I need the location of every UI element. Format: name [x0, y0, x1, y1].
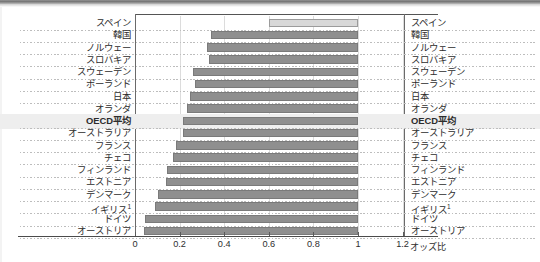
bar-スウェーデン	[193, 68, 358, 77]
x-tick-label: 0.2	[173, 239, 186, 249]
category-label-right: エストニア	[409, 176, 456, 188]
category-label-left: オーストラリア	[68, 127, 133, 139]
category-label-right: ノルウェー	[409, 42, 456, 54]
category-label-right: ポーランド	[409, 78, 456, 90]
category-label-right: 韓国	[409, 29, 429, 41]
category-label-left: フィンランド	[77, 164, 133, 176]
category-label-left: デンマーク	[86, 189, 133, 201]
bar-フィンランド	[167, 166, 358, 175]
bar-韓国	[211, 31, 358, 40]
category-label-right: オランダ	[409, 103, 447, 115]
category-label-left: ドイツ	[104, 213, 133, 225]
category-label-left: ポーランド	[86, 78, 133, 90]
category-label-left: スウェーデン	[77, 66, 133, 78]
category-label-right: デンマーク	[409, 189, 456, 201]
category-label-right: スウェーデン	[409, 66, 465, 78]
bar-エストニア	[166, 178, 358, 187]
bar-ポーランド	[195, 80, 358, 89]
x-tick-label: 0.4	[218, 239, 231, 249]
x-tick-label: 0.8	[307, 239, 320, 249]
category-label-right: フランス	[409, 140, 447, 152]
category-label-left: ノルウェー	[86, 42, 133, 54]
category-label-left: チェコ	[104, 152, 133, 164]
bar-ノルウェー	[207, 43, 358, 52]
bar-スロバキア	[209, 55, 358, 64]
bar-OECD平均	[183, 117, 358, 126]
category-label-right: スペイン	[409, 17, 446, 29]
footnote-marker: 1	[447, 203, 451, 210]
category-label-right: チェコ	[409, 152, 438, 164]
x-tick-label: 0	[132, 239, 137, 249]
x-tick-label: 1	[355, 239, 360, 249]
bar-オーストラリア	[183, 129, 358, 138]
category-label-left: スロバキア	[86, 54, 133, 66]
category-label-left: フランス	[95, 140, 133, 152]
category-label-right: ドイツ	[409, 213, 438, 225]
category-label-right: フィンランド	[409, 164, 465, 176]
bar-オーストリア	[144, 227, 358, 236]
category-label-left: エストニア	[86, 176, 133, 188]
bar-ドイツ	[145, 215, 358, 224]
x-tick	[313, 232, 314, 236]
x-axis-label: オッズ比	[410, 239, 446, 253]
x-tick	[180, 232, 181, 236]
bar-オランダ	[187, 104, 358, 113]
category-label-right: 日本	[409, 91, 429, 103]
x-tick	[224, 232, 225, 236]
footnote-marker: 1	[127, 203, 131, 210]
x-axis: オッズ比 00.20.40.60.811.2	[0, 236, 540, 262]
x-tick	[403, 232, 404, 236]
category-label-right: スロバキア	[409, 54, 456, 66]
bar-デンマーク	[158, 190, 358, 199]
x-tick	[269, 232, 270, 236]
bar-イギリス	[155, 202, 358, 211]
bar-フランス	[176, 141, 358, 150]
category-label-left: オランダ	[95, 103, 133, 115]
odds-ratio-chart: スペインスペイン韓国韓国ノルウェーノルウェースロバキアスロバキアスウェーデンスウ…	[0, 0, 540, 262]
chart-rows: スペインスペイン韓国韓国ノルウェーノルウェースロバキアスロバキアスウェーデンスウ…	[0, 0, 540, 262]
bar-チェコ	[173, 153, 358, 162]
category-label-left: スペイン	[96, 17, 133, 29]
bar-日本	[190, 92, 358, 101]
x-tick-label: 0.6	[262, 239, 275, 249]
category-label-right: OECD平均	[409, 115, 456, 127]
x-tick-label: 1.2	[396, 239, 409, 249]
bar-スペイン	[269, 19, 358, 28]
category-label-left: 韓国	[113, 29, 133, 41]
x-tick	[135, 232, 136, 236]
x-tick	[358, 232, 359, 236]
category-label-left: OECD平均	[86, 115, 133, 127]
category-label-right: オーストラリア	[409, 127, 474, 139]
category-label-left: 日本	[113, 91, 133, 103]
